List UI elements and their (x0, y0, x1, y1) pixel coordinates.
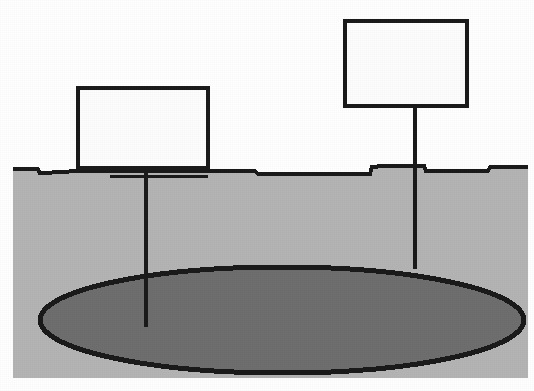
left-well-callout-box (78, 88, 208, 168)
cross-section-diagram (0, 0, 534, 391)
figure-root (0, 0, 534, 391)
subsurface-lens-group (40, 267, 524, 373)
subsurface-lens-shape (40, 267, 524, 373)
right-well-callout-box (345, 21, 467, 106)
